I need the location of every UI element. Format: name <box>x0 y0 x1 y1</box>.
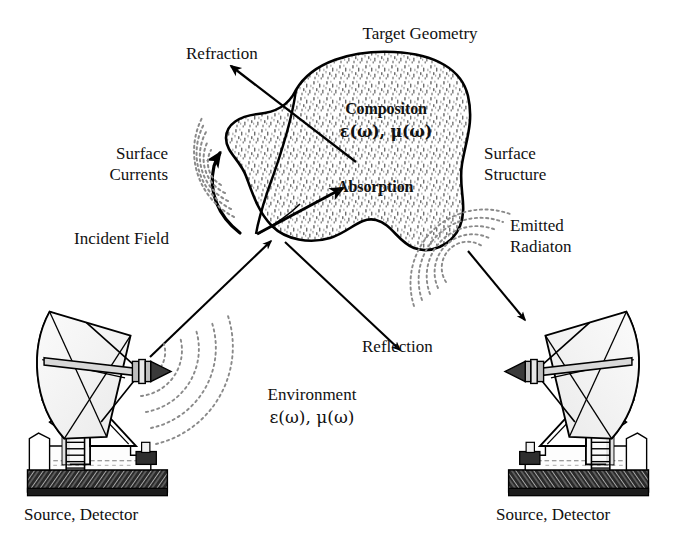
antenna-right <box>505 312 649 496</box>
incident-field-label: Incident Field <box>74 229 169 248</box>
surface-currents-label-line1: Surface <box>40 144 168 163</box>
emitted-radiation-label-line1: Emitted <box>510 216 564 235</box>
diagram-canvas <box>0 0 676 544</box>
environment-label-line1: Environment <box>222 385 402 404</box>
arrow-incident-field <box>150 241 271 357</box>
target-geometry-label: Target Geometry <box>330 24 510 43</box>
refraction-label: Refraction <box>186 44 258 63</box>
radar-target-diagram: Target Geometry Refraction Surface Curre… <box>0 0 676 544</box>
arrow-reflection <box>285 242 400 350</box>
target-blob <box>226 52 470 250</box>
composition-label-line2: ε(ω), μ(ω) <box>316 123 456 141</box>
reflection-label: Reflection <box>362 337 433 356</box>
surface-structure-label-line2: Structure <box>484 165 546 184</box>
surface-currents-label-line2: Currents <box>40 165 168 184</box>
environment-label-line2: ε(ω), μ(ω) <box>222 408 402 427</box>
emitted-radiation-label-line2: Radiaton <box>510 237 571 256</box>
source-detector-left-label: Source, Detector <box>24 505 138 524</box>
composition-label-line1: Compositon <box>316 100 456 118</box>
absorption-label: Absorption <box>337 178 413 196</box>
surface-structure-label-line1: Surface <box>484 144 536 163</box>
source-detector-right-label: Source, Detector <box>496 505 610 524</box>
arrow-emitted-radiation <box>468 251 525 320</box>
antenna-left <box>28 312 172 496</box>
